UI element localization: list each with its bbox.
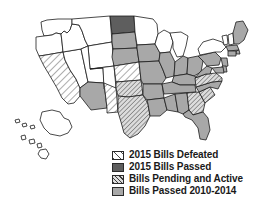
state-HI-kauai bbox=[21, 135, 26, 140]
state-OK bbox=[116, 80, 143, 97]
us-map-container bbox=[0, 0, 267, 160]
state-ME bbox=[233, 21, 248, 44]
state-CT bbox=[228, 51, 236, 56]
state-SD bbox=[112, 32, 137, 49]
legend-label-bills-defeated: 2015 Bills Defeated bbox=[129, 149, 218, 161]
state-MA bbox=[226, 45, 239, 51]
state-WY bbox=[88, 42, 114, 69]
state-AK-aleutian-3 bbox=[15, 119, 20, 123]
state-HI-big-island bbox=[38, 149, 49, 159]
swatch-bills-passed bbox=[112, 163, 124, 172]
state-MI bbox=[170, 32, 188, 57]
legend-label-bills-2010-2014: Bills Passed 2010-2014 bbox=[129, 185, 236, 197]
state-NY bbox=[198, 39, 226, 55]
state-KS bbox=[114, 62, 141, 82]
state-HI-maui bbox=[37, 143, 42, 148]
swatch-bills-2010-2014 bbox=[112, 187, 124, 196]
state-IN bbox=[174, 56, 188, 76]
legend-label-bills-pending: Bills Pending and Active bbox=[129, 173, 243, 185]
state-RI bbox=[236, 50, 240, 54]
state-shapes bbox=[15, 16, 248, 159]
legend-item-bills-passed[interactable]: 2015 Bills Passed bbox=[112, 161, 264, 173]
map-legend: 2015 Bills Defeated 2015 Bills Passed Bi… bbox=[112, 149, 264, 197]
legend-label-bills-passed: 2015 Bills Passed bbox=[129, 161, 211, 173]
legend-item-bills-defeated[interactable]: 2015 Bills Defeated bbox=[112, 149, 264, 161]
map-figure: 2015 Bills Defeated 2015 Bills Passed Bi… bbox=[0, 0, 267, 214]
swatch-bills-pending bbox=[112, 175, 124, 184]
state-MD bbox=[212, 67, 224, 73]
state-AR bbox=[143, 84, 164, 100]
state-AK bbox=[40, 110, 72, 136]
us-choropleth-map bbox=[0, 0, 267, 160]
state-HI-oahu bbox=[29, 139, 35, 144]
state-AZ bbox=[80, 82, 107, 110]
legend-item-bills-2010-2014[interactable]: Bills Passed 2010-2014 bbox=[112, 185, 264, 197]
state-ND bbox=[110, 16, 135, 34]
state-FL bbox=[183, 110, 210, 140]
state-AK-aleutian-2 bbox=[22, 123, 27, 127]
state-LA bbox=[147, 98, 167, 116]
state-AK-aleutian-1 bbox=[30, 125, 35, 129]
state-TX bbox=[118, 95, 150, 138]
legend-item-bills-pending[interactable]: Bills Pending and Active bbox=[112, 173, 264, 185]
swatch-bills-defeated bbox=[112, 151, 124, 160]
state-MN bbox=[134, 16, 158, 45]
